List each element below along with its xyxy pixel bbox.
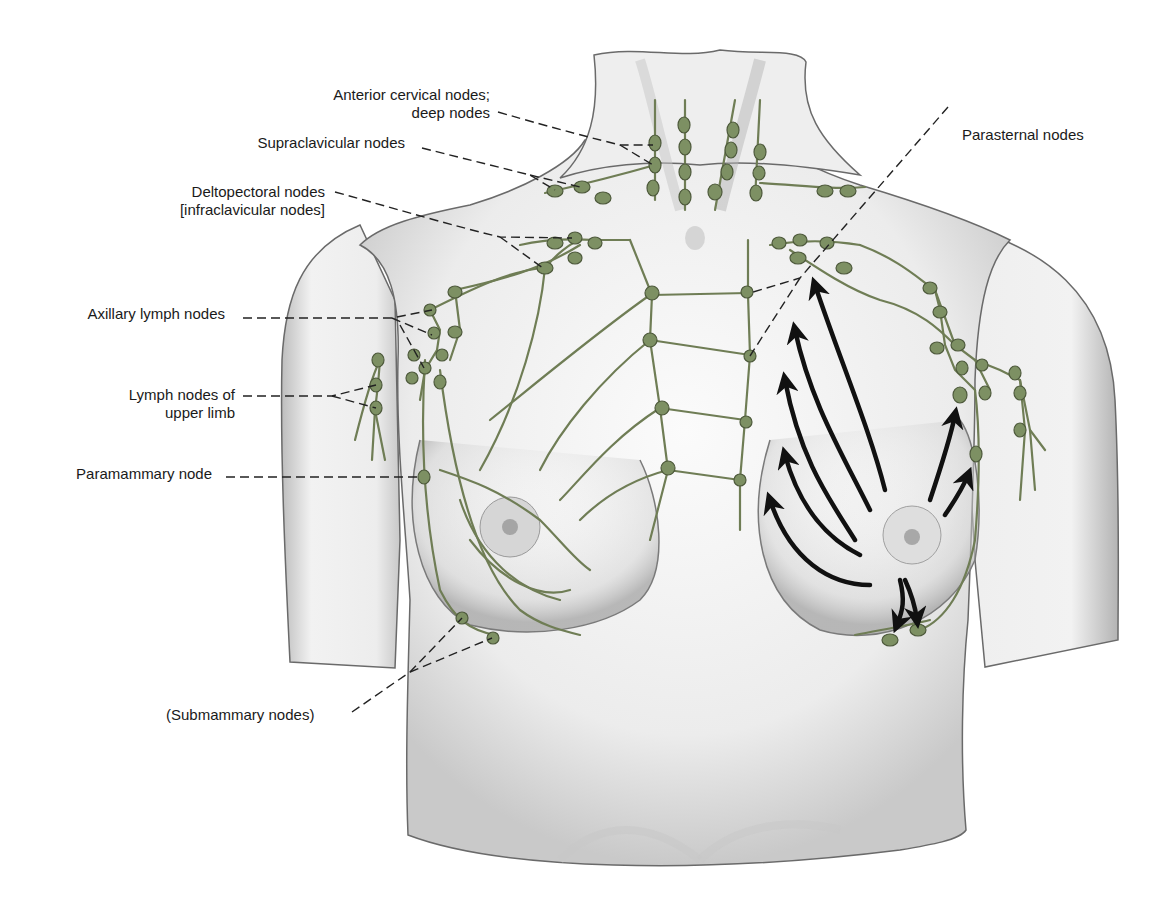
- left-nipple: [502, 519, 518, 535]
- label-line: deep nodes: [290, 104, 490, 122]
- label-line: Axillary lymph nodes: [40, 305, 225, 323]
- neck: [560, 50, 860, 178]
- label-upper-limb-nodes: Lymph nodes of upper limb: [60, 386, 235, 422]
- label-paramammary-node: Paramammary node: [30, 465, 212, 483]
- label-line: Supraclavicular nodes: [200, 134, 405, 152]
- label-line: (Submammary nodes): [166, 706, 314, 724]
- label-anterior-cervical-nodes: Anterior cervical nodes; deep nodes: [290, 86, 490, 122]
- label-line: Deltopectoral nodes: [140, 183, 325, 201]
- torso: [282, 50, 1119, 866]
- label-supraclavicular-nodes: Supraclavicular nodes: [200, 134, 405, 152]
- label-submammary-nodes: (Submammary nodes): [166, 706, 314, 724]
- label-parasternal-nodes: Parasternal nodes: [962, 126, 1084, 144]
- right-nipple: [904, 529, 920, 545]
- label-line: Parasternal nodes: [962, 126, 1084, 144]
- label-line: [infraclavicular nodes]: [140, 201, 325, 219]
- label-line: Paramammary node: [30, 465, 212, 483]
- label-deltopectoral-nodes: Deltopectoral nodes [infraclavicular nod…: [140, 183, 325, 219]
- label-line: Anterior cervical nodes;: [290, 86, 490, 104]
- label-axillary-lymph-nodes: Axillary lymph nodes: [40, 305, 225, 323]
- label-line: Lymph nodes of: [60, 386, 235, 404]
- label-line: upper limb: [60, 404, 235, 422]
